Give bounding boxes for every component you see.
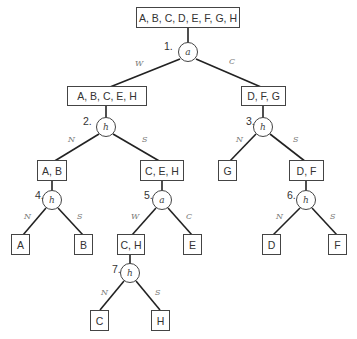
decision-node-5: a — [152, 190, 172, 210]
node-number-3: 3. — [246, 115, 255, 127]
node-number-7: 7. — [112, 263, 121, 275]
decision-node-6: h — [296, 190, 316, 210]
set-box-abceh: A, B, C, E, H — [67, 86, 147, 106]
decision-node-2: h — [96, 117, 116, 137]
node-number-4: 4. — [35, 189, 44, 201]
edge-label-1-left: W — [135, 59, 143, 68]
root-set-box: A, B, C, D, E, F, G, H — [136, 7, 240, 28]
edge-label-4-left: N — [24, 212, 31, 221]
edge-label-4-right: S — [77, 212, 82, 221]
set-box-c: C — [90, 310, 109, 331]
edge-label-5-left: W — [131, 212, 139, 221]
node-number-2: 2. — [83, 115, 92, 127]
set-box-ab: A, B — [37, 160, 67, 181]
node-number-1: 1. — [164, 40, 173, 52]
set-box-h: H — [151, 310, 170, 331]
node-number-5: 5. — [144, 189, 153, 201]
decision-node-3: h — [253, 117, 273, 137]
set-box-g: G — [218, 160, 237, 181]
node-number-6: 6. — [287, 189, 296, 201]
set-box-f: F — [328, 234, 347, 255]
edge-label-1-right: C — [229, 57, 235, 66]
edge-label-3-right: S — [293, 135, 298, 144]
edge-label-6-left: N — [276, 212, 283, 221]
edge-label-7-left: N — [101, 288, 108, 297]
edge-label-6-right: S — [330, 212, 335, 221]
set-box-df: D, F — [289, 160, 324, 181]
decision-node-4: h — [42, 190, 62, 210]
set-box-e: E — [183, 234, 202, 255]
set-box-ch: C, H — [117, 234, 145, 255]
edge-label-5-right: C — [186, 212, 192, 221]
set-box-b: B — [74, 234, 93, 255]
set-box-ceh: C, E, H — [140, 160, 184, 181]
edge-label-3-left: N — [236, 135, 243, 144]
decision-node-7: h — [120, 263, 140, 283]
set-box-dfg: D, F, G — [241, 86, 286, 106]
set-box-d: D — [262, 234, 281, 255]
edge-label-2-left: N — [68, 135, 75, 144]
edge-label-7-right: S — [155, 288, 160, 297]
set-box-a: A — [11, 234, 30, 255]
edge-label-2-right: S — [142, 135, 147, 144]
decision-node-1: a — [178, 42, 198, 62]
